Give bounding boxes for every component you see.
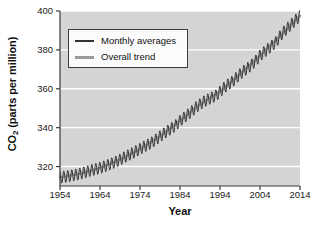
y-axis-title-main: CO — [6, 135, 18, 151]
x-axis-tick-label: 1954 — [40, 190, 80, 200]
x-axis-tick-label: 2014 — [280, 190, 318, 200]
legend-label-monthly-averages: Monthly averages — [101, 36, 176, 46]
x-axis-tick-label: 2004 — [240, 190, 280, 200]
y-axis-tick-label: 400 — [27, 6, 53, 16]
legend-label-overall-trend: Overall trend — [101, 52, 155, 62]
y-axis-title-rest: (parts per million) — [6, 37, 18, 131]
y-axis-tick-label: 340 — [27, 123, 53, 133]
y-axis-title: CO2 (parts per million) — [6, 4, 18, 184]
x-axis-title: Year — [60, 205, 300, 217]
y-axis-tick-label: 320 — [27, 162, 53, 172]
y-axis-tick-label: 380 — [27, 45, 53, 55]
legend: Monthly averages Overall trend — [68, 29, 188, 68]
x-axis-tick-label: 1994 — [200, 190, 240, 200]
y-axis-tick-label: 360 — [27, 84, 53, 94]
legend-item-overall-trend: Overall trend — [75, 49, 155, 65]
y-axis-title-subscript: 2 — [11, 131, 20, 135]
legend-swatch-overall-trend — [75, 56, 94, 59]
x-axis-tick-label: 1984 — [160, 190, 200, 200]
legend-item-monthly-averages: Monthly averages — [75, 33, 176, 49]
legend-swatch-monthly-averages — [75, 40, 94, 42]
co2-concentration-chart: CO2 (parts per million) Year 32034036038… — [0, 0, 318, 231]
x-axis-tick-label: 1964 — [80, 190, 120, 200]
x-axis-tick-label: 1974 — [120, 190, 160, 200]
